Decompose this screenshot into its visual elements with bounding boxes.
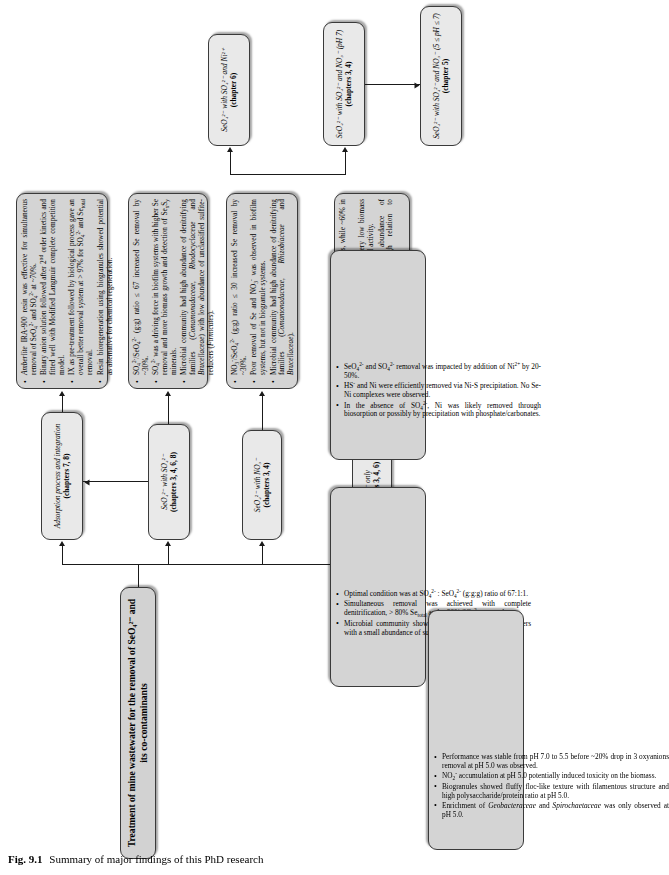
findings-list-seo4-so4: SO42-/SeO42- (g:g) ratio ≤ 67 increased …: [133, 199, 216, 383]
stage-seo4-so4-no3-ph7-line2: (chapters 3, 4): [344, 62, 353, 107]
arrow-ph7-to-ph5: [415, 83, 420, 89]
finding-item: Microbial community had high abundance o…: [180, 199, 216, 383]
findings-box-adsorption: Amberlite IRA-900 resin was effective fo…: [16, 193, 108, 389]
connector-to-adsorption: [62, 545, 63, 565]
arrow-to-seo4-so4-no3-ph7: [342, 147, 348, 152]
finding-item: Poor removal of Se and NO3- was observed…: [250, 199, 268, 383]
arrow-to-seo4-only: [369, 541, 375, 546]
connector-second-spine-stub-top: [230, 151, 231, 175]
stage-node-seo4-so4-no3-ph5[interactable]: SeO₄²⁻ with SO₄²⁻ and NO₃⁻ (5 ≤ pH ≤ 7) …: [420, 6, 462, 146]
stage-node-seo4-only[interactable]: SeO₄²⁻ only (chapters 3, 4, 6): [352, 436, 392, 540]
findings-list-seo4-no3: NO3-/SeO42- (g:g) ratio ≤ 30 increased S…: [231, 199, 296, 383]
connector-adsorption-findings: [62, 395, 63, 412]
connector-title-trunk: [138, 565, 139, 587]
flowchart-title-node: Treatment of mine wastewater for the rem…: [120, 587, 156, 859]
finding-item: Microbial community had high abundance o…: [378, 199, 405, 383]
figure-caption: Fig. 9.1 Summary of major findings of th…: [8, 849, 492, 867]
stage-adsorption-line1: Adsorption process and integration: [53, 424, 62, 529]
flowchart-title-label: Treatment of mine wastewater for the rem…: [126, 596, 149, 850]
connector-seo4no3-findings: [262, 395, 263, 430]
finding-item: Resin bioregeneration using biogranules …: [97, 199, 115, 383]
stage-seo4-only-line1: SeO₄²⁻ only: [363, 470, 372, 506]
connector-seo4only-findings: [372, 395, 373, 436]
finding-item: SO42- was a driving force in biofilm sys…: [152, 199, 179, 383]
finding-item: SO42-/SeO42- (g:g) ratio ≤ 67 increased …: [133, 199, 151, 383]
stage-node-seo4-so4-no3-ph7[interactable]: SeO₄²⁻ with SO₄²⁻ and NO₃⁻ (pH 7) (chapt…: [323, 22, 365, 146]
findings-list-seo4-only: Se removal was < 30% in biofilm systems,…: [339, 199, 404, 383]
findings-box-seo4-so4: SO42-/SeO42- (g:g) ratio ≤ 67 increased …: [128, 193, 208, 389]
finding-item: Biofilms were thin and compact with very…: [358, 199, 376, 383]
arrow-seo4no3-findings: [259, 391, 265, 396]
stage-node-adsorption[interactable]: Adsorption process and integration (chap…: [41, 412, 83, 540]
finding-item: IX as pre-treatment followed by biologic…: [68, 199, 95, 383]
arrow-seo4only-findings: [369, 391, 375, 396]
arrow-seo4so4-findings: [165, 391, 171, 396]
findings-box-seo4-no3: NO3-/SeO42- (g:g) ratio ≤ 30 increased S…: [226, 193, 298, 389]
findings-box-seo4-only: Se removal was < 30% in biofilm systems,…: [334, 193, 410, 389]
connector-to-seo4-only: [372, 545, 373, 565]
arrow-adsorption-findings: [59, 391, 65, 396]
stage-seo4-no3-line2: (chapters 3, 4): [262, 463, 271, 508]
finding-item: Microbial community had high abundance o…: [270, 199, 297, 383]
stage-node-seo4-no3[interactable]: SeO₄²⁻ with NO₃⁻ (chapters 3, 4): [242, 430, 282, 540]
stage-seo4-so4-no3-ph5-line2: (chapter 5): [441, 59, 450, 94]
finding-item: NO3-/SeO42- (g:g) ratio ≤ 30 increased S…: [231, 199, 249, 383]
stage-node-seo4-so4-ni[interactable]: SeO₄²⁻ with SO₄²⁻ and Ni²⁺ (chapter 6): [208, 34, 250, 146]
arrow-seo4so4-to-adsorption: [85, 480, 90, 486]
connector-to-seo4-so4: [168, 545, 169, 565]
connector-to-seo4-no3: [262, 545, 263, 565]
stage-seo4-no3-line1: SeO₄²⁻ with NO₃⁻: [253, 458, 262, 512]
connector-seo4so4-to-adsorption: [83, 481, 148, 482]
figure-caption-text: Summary of major findings of this PhD re…: [49, 853, 263, 865]
connector-title-spine: [62, 564, 372, 565]
finding-item: Amberlite IRA-900 resin was effective fo…: [21, 199, 39, 383]
stage-seo4-only-line2: (chapters 3, 4, 6): [372, 462, 381, 514]
findings-list-adsorption: Amberlite IRA-900 resin was effective fo…: [21, 199, 114, 383]
connector-second-spine-stub-bottom: [345, 151, 346, 175]
connector-ph7-to-ph5: [365, 84, 420, 85]
stage-seo4-so4-no3-ph7-line1: SeO₄²⁻ with SO₄²⁻ and NO₃⁻ (pH 7): [335, 30, 344, 138]
finding-item: Binary anion solution followed after 2nd…: [40, 199, 67, 383]
finding-item: Se removal was < 30% in biofilm systems,…: [339, 199, 357, 383]
stage-seo4-so4-no3-ph5-line1: SeO₄²⁻ with SO₄²⁻ and NO₃⁻ (5 ≤ pH ≤ 7): [432, 13, 441, 139]
stage-seo4-so4-line1: SeO₄²⁻ with SO₄²⁻: [160, 454, 169, 509]
arrow-to-seo4-so4: [165, 541, 171, 546]
stage-adsorption-line2: (chapters 7, 8): [62, 454, 71, 499]
stage-seo4-so4-ni-line2: (chapter 6): [229, 73, 238, 108]
arrow-to-adsorption: [59, 541, 65, 546]
stage-seo4-so4-line2: (chapters 3, 4, 6, 8): [169, 452, 178, 512]
stage-node-seo4-so4[interactable]: SeO₄²⁻ with SO₄²⁻ (chapters 3, 4, 6, 8): [148, 424, 190, 540]
arrow-to-seo4-so4-ni: [227, 147, 233, 152]
figure-number: Fig. 9.1: [8, 853, 43, 865]
stage-seo4-so4-ni-line1: SeO₄²⁻ with SO₄²⁻ and Ni²⁺: [220, 48, 229, 131]
arrow-to-seo4-no3: [259, 541, 265, 546]
connector-second-spine: [230, 174, 345, 175]
connector-seo4so4-findings: [168, 395, 169, 424]
